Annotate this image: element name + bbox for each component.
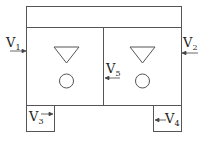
arrow-right-icon (49, 112, 53, 115)
label-v5: V5 (106, 62, 120, 78)
arrow-left-icon (155, 118, 159, 121)
arrow-right-icon (22, 49, 26, 52)
label-v2: V2 (183, 36, 197, 52)
liquid-level-triangle-icon (54, 47, 79, 63)
stirrer-circle-icon (136, 74, 150, 88)
label-v3: V3 (29, 110, 43, 126)
label-v1: V1 (6, 36, 20, 52)
label-v4: V4 (165, 112, 179, 128)
stirrer-circle-icon (60, 74, 74, 88)
liquid-level-triangle-icon (130, 47, 155, 63)
